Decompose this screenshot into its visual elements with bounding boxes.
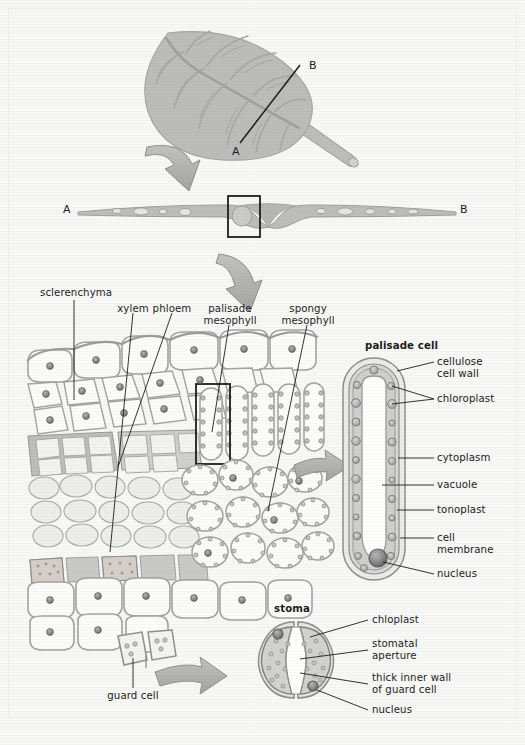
section-midrib-bundle: [232, 206, 252, 226]
label-sclerenchyma: sclerenchyma: [40, 287, 112, 299]
label-thick-inner-wall: thick inner wall of guard cell: [372, 672, 451, 695]
section-label-a: A: [63, 204, 71, 216]
heading-stoma: stoma: [274, 603, 310, 615]
heading-palisade-cell: palisade cell: [365, 340, 438, 352]
section-right-lamina: [268, 205, 456, 228]
label-stomatal-aperture: stomatal aperture: [372, 638, 418, 661]
label-chloroplast: chloroplast: [437, 393, 494, 405]
label-chloplast: chloplast: [372, 614, 419, 626]
vascular-bundle-region: [28, 430, 208, 584]
palisade-mesophyll-cells: [196, 383, 324, 464]
leaf-section-label-b: B: [309, 60, 317, 72]
stoma-nucleus-left: [273, 629, 283, 639]
transverse-section-panel: [78, 196, 456, 237]
arrow-tissue-to-stoma: [155, 657, 227, 694]
leaf-section-label-a: A: [232, 146, 240, 158]
leader-cellulose-wall: [397, 362, 434, 371]
palisade-vacuole: [362, 376, 386, 557]
label-cellulose-cell-wall: cellulose cell wall: [437, 356, 483, 379]
label-cell-membrane: cell membrane: [437, 532, 494, 555]
label-spongy-mesophyll: spongy mesophyll: [277, 303, 339, 326]
stomatal-aperture-pore: [286, 627, 306, 694]
section-label-b: B: [460, 204, 468, 216]
label-palisade-nucleus: nucleus: [437, 568, 477, 580]
spongy-mesophyll-cells: [182, 460, 334, 568]
label-cytoplasm: cytoplasm: [437, 452, 491, 464]
tissue-detail-panel: [27, 330, 334, 668]
palisade-cell-panel: [343, 358, 405, 580]
label-stoma-nucleus: nucleus: [372, 704, 412, 716]
label-guard-cell: guard cell: [101, 690, 165, 702]
stoma-nucleus-right: [308, 681, 318, 691]
label-tonoplast: tonoplast: [437, 504, 486, 516]
label-phloem: phloem: [146, 303, 198, 315]
palisade-nucleus: [369, 549, 387, 567]
label-vacuole: vacuole: [437, 479, 477, 491]
leader-stoma-nucleus: [317, 690, 368, 710]
label-palisade-mesophyll: palisade mesophyll: [199, 303, 261, 326]
figure-page: B A A B sclerenchyma xylem phloem palisa…: [0, 0, 525, 745]
